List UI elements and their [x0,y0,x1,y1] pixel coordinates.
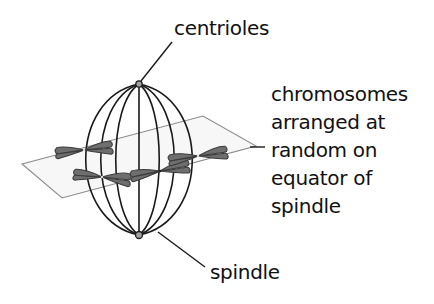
label-line: random on [271,136,408,164]
label-line: equator of [271,164,408,192]
label-centrioles: centrioles [174,14,269,42]
leader-line-centrioles [141,42,172,81]
label-line: chromosomes [271,80,408,108]
label-line: spindle [271,192,408,220]
leader-line-spindle [158,232,205,267]
centriole-bottom [136,232,143,239]
centriole-top [136,81,142,87]
label-spindle: spindle [210,258,280,286]
label-chromosomes-arranged: chromosomes arranged at random on equato… [271,80,408,220]
label-line: arranged at [271,108,408,136]
